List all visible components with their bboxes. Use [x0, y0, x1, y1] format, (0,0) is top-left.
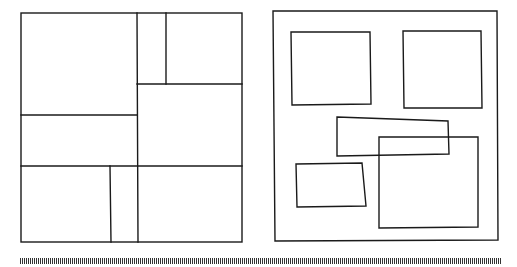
tick-strip: [21, 258, 501, 264]
quad-e: [296, 163, 366, 207]
partition-line: [137, 13, 138, 242]
rect-d: [379, 137, 478, 228]
rect-a: [291, 32, 371, 105]
right-scattered-rectangles-diagram: [273, 11, 498, 241]
left-partition-diagram: [21, 13, 242, 242]
diagram-figure: [0, 0, 517, 267]
left-outer-square: [21, 13, 242, 242]
rect-b: [403, 31, 482, 108]
partition-line: [110, 166, 111, 242]
